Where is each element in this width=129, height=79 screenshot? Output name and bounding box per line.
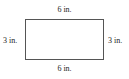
left-side-label: 3 in. — [3, 36, 17, 45]
right-side-label: 3 in. — [108, 36, 122, 45]
bottom-side-label: 6 in. — [0, 64, 129, 73]
top-side-label: 6 in. — [0, 5, 129, 14]
rectangle-shape — [25, 19, 104, 60]
